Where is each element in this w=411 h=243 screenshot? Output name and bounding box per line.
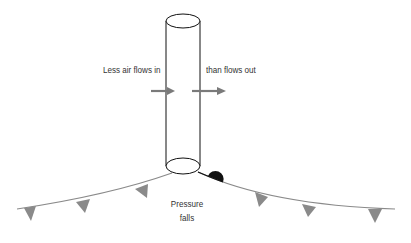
outflow-arrow-head [217, 87, 226, 95]
pressure-label-line1: Pressure [167, 197, 208, 211]
warm-front-semicircle [208, 171, 224, 182]
front-line-right [198, 172, 395, 209]
cold-front-triangle [135, 184, 148, 198]
outflow-label: than flows out [206, 64, 256, 75]
inflow-arrow-head [167, 87, 175, 95]
pressure-label-line2: falls [167, 211, 208, 225]
inflow-label: Less air flows in [103, 64, 160, 75]
cylinder-top [166, 14, 200, 28]
front-triangle [302, 204, 316, 217]
pressure-label: Pressure falls [167, 197, 208, 225]
cold-front-line [17, 173, 172, 209]
front-triangle [368, 209, 382, 223]
cold-front-triangle [24, 206, 36, 221]
cylinder-bottom [166, 158, 200, 174]
cold-front-triangle [76, 199, 90, 213]
